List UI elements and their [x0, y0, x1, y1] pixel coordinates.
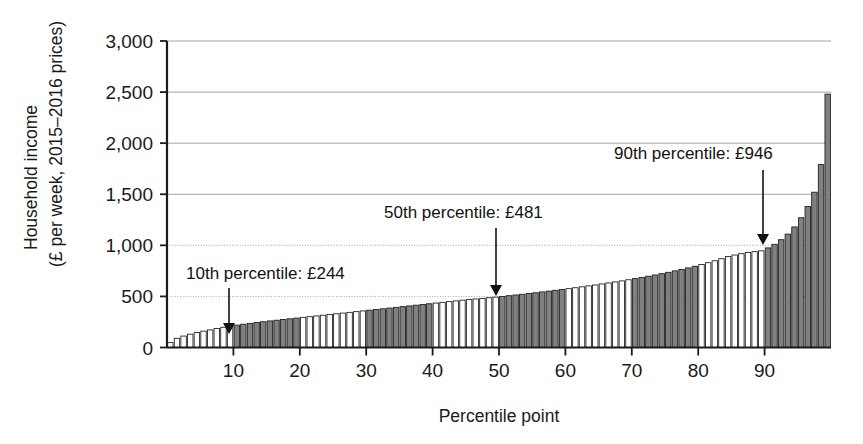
bar [287, 319, 292, 348]
bar [798, 218, 803, 348]
bar [739, 254, 744, 348]
bar [280, 320, 285, 348]
bar [427, 304, 432, 348]
bar [686, 268, 691, 348]
bar [513, 295, 518, 348]
bar [672, 271, 677, 348]
bar [553, 290, 558, 347]
bar [360, 311, 365, 348]
y-tick-label: 0 [142, 338, 153, 359]
bar [566, 289, 571, 348]
bar [367, 310, 372, 347]
bar [725, 257, 730, 348]
bar [433, 303, 438, 347]
household-income-percentile-chart: 05001,0001,5002,0002,5003,000 1020304050… [0, 0, 863, 444]
bar [593, 285, 598, 348]
bar [626, 280, 631, 348]
y-axis-title-line1: Household income [21, 105, 41, 250]
bar [559, 289, 564, 347]
y-axis-title-line2: (£ per week, 2015–2016 prices) [46, 21, 66, 267]
bar [320, 315, 325, 347]
y-tick-label: 2,500 [105, 82, 153, 103]
x-tick-label: 80 [688, 360, 709, 381]
bar [785, 234, 790, 347]
bar [606, 283, 611, 348]
bar [486, 298, 491, 348]
bar [327, 315, 332, 348]
x-tick-label: 10 [223, 360, 244, 381]
y-tick-label: 2,000 [105, 133, 153, 154]
bar [480, 298, 485, 347]
bar [719, 259, 724, 348]
x-tick-label: 30 [356, 360, 377, 381]
bar [579, 287, 584, 348]
bar [506, 296, 511, 348]
bar [705, 263, 710, 348]
bar [500, 296, 505, 347]
bar [539, 292, 544, 348]
bar [307, 317, 312, 348]
bar [586, 286, 591, 348]
bar [453, 301, 458, 348]
bar [254, 323, 259, 348]
bar [666, 272, 671, 347]
bar [207, 330, 212, 348]
x-tick-label: 60 [555, 360, 576, 381]
bar [772, 244, 777, 347]
bar [646, 276, 651, 347]
y-tick-label: 1,500 [105, 184, 153, 205]
bar [188, 334, 193, 347]
x-tick-label: 50 [488, 360, 509, 381]
bar [347, 312, 352, 347]
bar [241, 324, 246, 347]
bar [712, 261, 717, 348]
bar [267, 321, 272, 348]
bar [387, 308, 392, 347]
bar [546, 291, 551, 347]
bar [573, 288, 578, 348]
bar [261, 322, 266, 348]
y-tick-label: 3,000 [105, 31, 153, 52]
bar [201, 331, 206, 347]
bar [393, 307, 398, 347]
bar [812, 192, 817, 347]
bar [247, 323, 252, 347]
bar [732, 255, 737, 347]
bar [759, 251, 764, 348]
bar [659, 274, 664, 348]
bar [752, 252, 757, 348]
bar [526, 294, 531, 348]
bar [373, 309, 378, 347]
bar [765, 248, 770, 348]
bar [805, 207, 810, 348]
annotation-label: 10th percentile: £244 [186, 264, 345, 283]
bar [652, 275, 657, 348]
x-tick-label: 40 [422, 360, 443, 381]
bar [460, 300, 465, 347]
bar [314, 316, 319, 348]
bar [274, 320, 279, 347]
bar [440, 302, 445, 347]
bar [745, 252, 750, 347]
y-tick-label: 1,000 [105, 235, 153, 256]
bar [466, 300, 471, 348]
bar [354, 312, 359, 348]
bar [792, 227, 797, 348]
bar [407, 306, 412, 348]
x-axis-title: Percentile point [439, 406, 560, 426]
bar [300, 317, 305, 347]
bar [599, 284, 604, 348]
bar [340, 313, 345, 347]
bar [473, 299, 478, 348]
bar [380, 309, 385, 348]
x-tick-label: 90 [754, 360, 775, 381]
bar [699, 265, 704, 348]
bar [679, 269, 684, 347]
x-tick-label: 70 [621, 360, 642, 381]
bar [400, 307, 405, 348]
bar [174, 338, 179, 347]
bar [692, 266, 697, 347]
bar [446, 302, 451, 348]
x-tick-label: 20 [289, 360, 310, 381]
bar [493, 297, 498, 347]
